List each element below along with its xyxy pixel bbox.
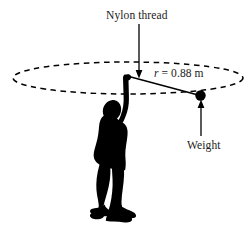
label-radius: r = 0.88 m [154,67,204,80]
label-nylon-thread: Nylon thread [106,9,168,22]
label-weight: Weight [187,139,221,152]
nylon-thread-arrow [136,24,143,79]
weight-dot [195,90,205,100]
weight-arrow [198,100,205,137]
diagram-canvas [0,0,252,227]
person-silhouette [90,74,136,222]
physics-diagram-figure: Nylon thread r = 0.88 m Weight [0,0,252,227]
radius-value-text: = 0.88 m [159,67,204,79]
